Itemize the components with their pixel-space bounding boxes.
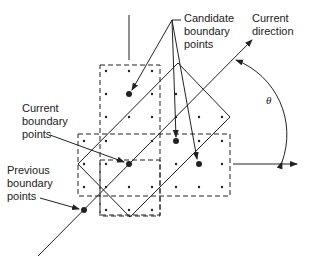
theta-arc — [236, 60, 287, 162]
candidate-point-1 — [126, 91, 132, 97]
label-current-boundary: Current boundary points — [22, 102, 71, 140]
previous-boundary-point — [81, 207, 87, 213]
window-top — [100, 65, 160, 215]
window-bottom — [100, 160, 160, 216]
label-theta: θ — [266, 94, 272, 106]
label-previous-boundary: Previous boundary points — [7, 164, 56, 202]
label-candidate: Candidate boundary points — [184, 12, 237, 50]
leader-previous — [40, 198, 79, 209]
boundary-tracking-diagram: Candidate boundary points Current direct… — [0, 0, 315, 262]
leader-candidate-1 — [132, 20, 172, 90]
candidate-point-2 — [173, 138, 179, 144]
rotated-window — [78, 63, 230, 217]
current-direction-line — [38, 40, 252, 256]
leader-current — [50, 135, 124, 162]
current-boundary-point — [126, 161, 132, 167]
label-current-direction: Current direction — [252, 12, 294, 37]
candidate-point-3 — [196, 161, 202, 167]
